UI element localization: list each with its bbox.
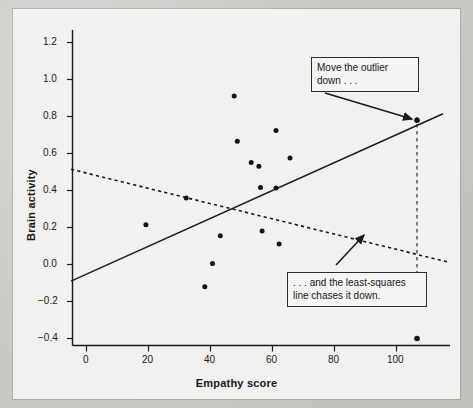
- x-tick-label: 40: [204, 354, 215, 365]
- chart-figure: 1.2 1.0 0.8 0.6 0.4 0.2 0.0 −0.2 −0.4 0 …: [13, 9, 460, 399]
- data-point: [232, 94, 237, 99]
- data-point: [256, 164, 261, 169]
- data-point: [274, 128, 279, 133]
- outlier-callout-arrow: [325, 93, 412, 119]
- y-tick-label: 0.8: [43, 110, 57, 121]
- x-tick-label: 20: [142, 354, 153, 365]
- least-squares-callout-arrow: [336, 235, 364, 265]
- y-tick-label: 0.4: [43, 184, 57, 195]
- data-point: [288, 156, 293, 161]
- x-tick-label: 80: [328, 354, 339, 365]
- y-tick-label: 0.0: [43, 258, 57, 269]
- data-point: [218, 233, 223, 238]
- data-point: [235, 139, 240, 144]
- y-tick-label: 1.0: [43, 73, 57, 84]
- y-tick-label: 0.2: [43, 221, 57, 232]
- original-least-squares-line: [71, 114, 443, 281]
- y-axis-ticks: [67, 43, 73, 339]
- y-tick-label: 0.6: [43, 147, 57, 158]
- x-axis-ticks: [87, 346, 397, 352]
- data-point: [249, 160, 254, 165]
- x-tick-label: 0: [83, 354, 89, 365]
- x-tick-label: 100: [387, 354, 404, 365]
- y-tick-label: −0.2: [38, 295, 58, 306]
- y-tick-label: 1.2: [43, 36, 57, 47]
- data-point: [202, 284, 207, 289]
- y-tick-label: −0.4: [38, 332, 58, 343]
- outlier-point-low: [414, 336, 420, 342]
- x-axis-title: Empathy score: [13, 377, 460, 389]
- figure-page: 1.2 1.0 0.8 0.6 0.4 0.2 0.0 −0.2 −0.4 0 …: [0, 0, 473, 408]
- y-axis-title: Brain activity: [25, 145, 37, 265]
- callout-move-outlier: Move the outlier down . . .: [311, 57, 419, 92]
- data-point: [274, 185, 279, 190]
- new-least-squares-line: [71, 169, 447, 261]
- data-point: [260, 229, 265, 234]
- x-tick-label: 60: [266, 354, 277, 365]
- outlier-point-high: [414, 117, 420, 123]
- data-point: [258, 185, 263, 190]
- data-point: [277, 242, 282, 247]
- data-point: [210, 261, 215, 266]
- data-point: [184, 195, 189, 200]
- data-point: [143, 222, 148, 227]
- callout-least-squares: . . . and the least-squares line chases …: [287, 272, 427, 307]
- callout-leaders: [325, 93, 412, 265]
